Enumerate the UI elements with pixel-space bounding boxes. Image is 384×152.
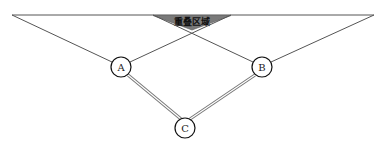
node-a-label: A [116,62,125,73]
edge-a-c-double [128,75,181,119]
edge-topleft-a [12,15,112,62]
overlap-region-label: 重叠区域 [174,16,210,27]
edge-b-c-double [190,75,255,119]
node-a: A [111,57,131,77]
node-c-label: C [181,123,189,134]
node-b: B [252,57,272,77]
edge-topright-b [271,15,374,62]
node-c: C [175,118,195,138]
overlap-diagram: 重叠区域 A B C [0,0,384,152]
node-b-label: B [258,62,265,73]
